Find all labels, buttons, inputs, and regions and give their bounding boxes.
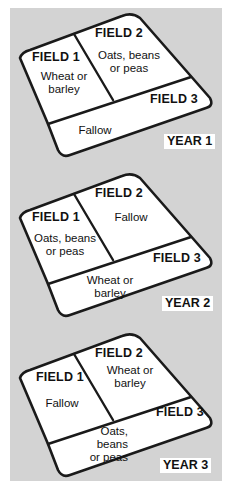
field-1-name: FIELD 1: [32, 50, 80, 64]
field-1-name: FIELD 1: [32, 210, 80, 224]
field-2-name: FIELD 2: [95, 186, 143, 200]
field-2-name: FIELD 2: [95, 346, 143, 360]
field-2-crop: Fallow: [106, 211, 156, 224]
year-label: YEAR 1: [164, 134, 215, 149]
field-2-crop: Oats, beans or peas: [94, 49, 164, 75]
field-1-crop: Fallow: [42, 397, 82, 410]
field-3-crop: Fallow: [70, 124, 120, 137]
field-3-crop: Wheat or barley: [82, 274, 138, 300]
field-1-name: FIELD 1: [36, 370, 84, 384]
field-3-name: FIELD 3: [153, 251, 201, 265]
field-2-crop: Wheat or barley: [102, 364, 158, 390]
field-2-name: FIELD 2: [95, 26, 143, 40]
field-3-name: FIELD 3: [150, 92, 198, 106]
year-label: YEAR 3: [160, 458, 211, 473]
field-1-crop: Oats, beans or peas: [30, 232, 100, 258]
field-3-crop: Oats, beans or peas: [72, 425, 128, 464]
year-label: YEAR 2: [162, 296, 213, 311]
field-1-crop: Wheat or barley: [36, 70, 92, 96]
field-3-name: FIELD 3: [156, 405, 204, 419]
